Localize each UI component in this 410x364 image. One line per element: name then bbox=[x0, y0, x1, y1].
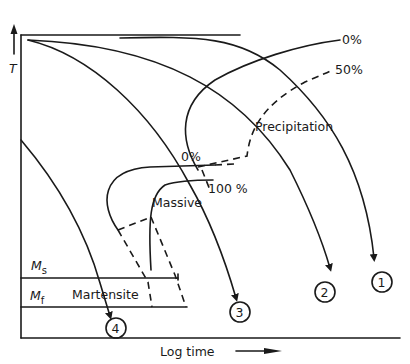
x-axis-arrow-icon bbox=[236, 348, 282, 354]
curve-1-label: 1 bbox=[378, 275, 386, 290]
y-axis-arrow-icon bbox=[11, 24, 18, 54]
curve-3-label: 3 bbox=[236, 305, 244, 320]
massive-dash-connector bbox=[118, 217, 151, 230]
massive-start-ext bbox=[215, 164, 235, 165]
ms-label: Ms bbox=[31, 258, 47, 276]
massive-dash-right bbox=[151, 217, 186, 307]
precip-50-label: 50% bbox=[335, 62, 363, 77]
massive-0-label: 0% bbox=[181, 149, 201, 164]
precipitation-label: Precipitation bbox=[255, 119, 333, 134]
mf-label: Mf bbox=[30, 288, 45, 306]
precip-0-label: 0% bbox=[342, 32, 362, 47]
massive-label: Massive bbox=[152, 195, 202, 210]
curve-4-label: 4 bbox=[112, 321, 120, 336]
precipitation-start-curve bbox=[185, 40, 340, 170]
curve-2-label: 2 bbox=[321, 285, 329, 300]
cooling-curve-3 bbox=[28, 40, 236, 298]
transformation-diagram: T Log time Ms Mf Martensite 0% 50% Preci… bbox=[0, 0, 410, 364]
y-axis-label: T bbox=[9, 61, 18, 76]
massive-end-curve bbox=[150, 180, 213, 270]
massive-100-label: 100 % bbox=[208, 181, 248, 196]
x-axis-label: Log time bbox=[160, 344, 215, 359]
